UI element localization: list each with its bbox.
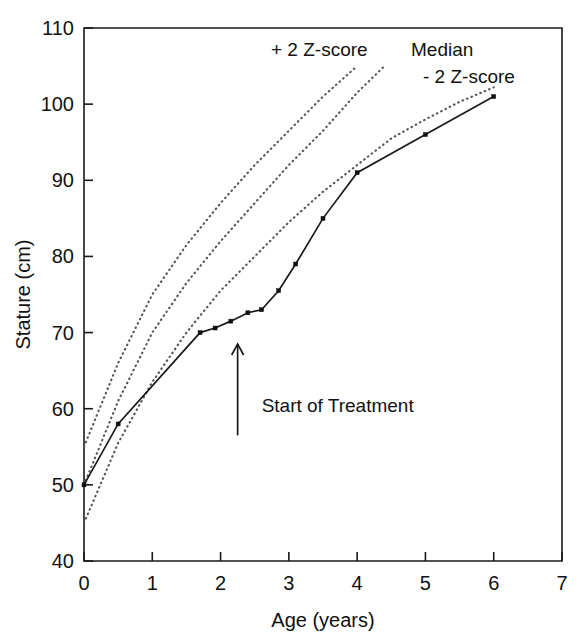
curve-label-plus-2z: + 2 Z-score [271,39,368,60]
curve-label-minus-2z: - 2 Z-score [423,66,515,87]
treatment-annotation-label: Start of Treatment [262,395,415,416]
x-tick-label: 7 [556,572,567,594]
patient-data-point [116,422,120,426]
patient-series [82,95,496,487]
patient-data-point [492,95,496,99]
y-axis: 405060708090100110 [41,17,93,572]
start-of-treatment-annotation: Start of Treatment [232,344,415,435]
y-tick-label: 90 [52,169,74,191]
patient-data-point [321,216,325,220]
y-tick-label: 40 [52,550,74,572]
patient-data-point [229,319,233,323]
y-tick-label: 80 [52,245,74,267]
x-tick-label: 6 [488,572,499,594]
x-tick-label: 4 [352,572,363,594]
y-tick-label: 50 [52,474,74,496]
x-tick-label: 2 [215,572,226,594]
patient-data-point [213,326,217,330]
y-tick-label: 110 [42,17,74,39]
x-axis: 01234567 [78,552,567,594]
patient-data-point [355,171,359,175]
curve-label-median: Median [411,39,473,60]
reference-curve [84,66,357,447]
patient-line [84,97,494,485]
x-tick-label: 3 [283,572,294,594]
patient-data-point [260,308,264,312]
reference-curve [84,87,494,523]
y-tick-label: 100 [41,93,74,115]
x-tick-label: 5 [420,572,431,594]
patient-data-point [294,262,298,266]
patient-data-point [423,133,427,137]
x-axis-title: Age (years) [271,609,374,631]
chart-canvas: 405060708090100110 01234567 + 2 Z-score … [0,0,580,640]
x-tick-label: 0 [78,572,89,594]
growth-chart-figure: 405060708090100110 01234567 + 2 Z-score … [0,0,580,640]
reference-curves [84,66,494,523]
y-tick-label: 70 [52,322,74,344]
x-tick-label: 1 [147,572,158,594]
patient-data-point [277,289,281,293]
y-axis-title: Stature (cm) [12,239,34,349]
patient-data-point [246,311,250,315]
patient-data-point [82,483,86,487]
axes-frame [84,28,562,561]
y-tick-label: 60 [52,398,74,420]
patient-data-point [198,331,202,335]
